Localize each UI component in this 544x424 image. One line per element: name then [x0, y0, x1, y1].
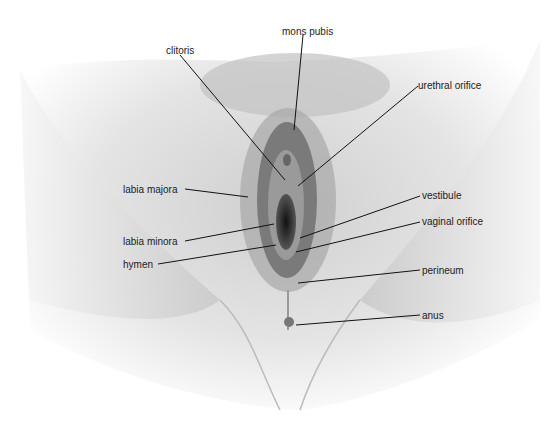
mons-region — [200, 53, 390, 117]
label-hymen: hymen — [123, 259, 153, 271]
label-labia-minora: labia minora — [123, 236, 177, 248]
label-labia-majora: labia majora — [123, 184, 177, 196]
label-anus: anus — [422, 310, 444, 322]
label-vestibule: vestibule — [422, 190, 461, 202]
anatomy-illustration — [0, 0, 544, 424]
label-vaginal-orifice: vaginal orifice — [422, 216, 483, 228]
label-clitoris: clitoris — [166, 45, 194, 57]
label-mons-pubis: mons pubis — [282, 26, 333, 38]
label-perineum: perineum — [422, 265, 464, 277]
label-urethral-orifice: urethral orifice — [418, 80, 481, 92]
